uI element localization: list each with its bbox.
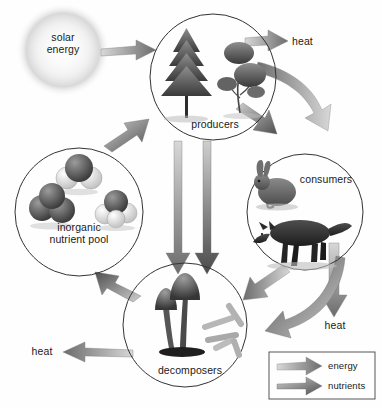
arrow-consumers-to-decomposers-energy (243, 265, 290, 300)
legend-label-nutrients: nutrients (328, 380, 382, 392)
solar-energy-label: solar energy (23, 31, 103, 55)
ecosystem-diagram: solar energy producers consumers decompo… (0, 0, 382, 409)
legend-label-energy: energy (328, 360, 378, 372)
heat-label-producers: heat (292, 35, 332, 47)
heat-label-decomposers: heat (22, 345, 62, 357)
heat-label-consumers: heat (315, 319, 355, 331)
node-label-producers: producers (175, 118, 255, 130)
legend-arrow-energy (277, 357, 322, 375)
arrow-decomposers-to-heat (63, 342, 133, 362)
arrow-producers-to-decomposers-nutrients (195, 141, 219, 274)
node-label-decomposers: decomposers (145, 364, 235, 376)
node-label-consumers: consumers (286, 173, 366, 185)
node-label-nutrient-pool: inorganic nutrient pool (29, 221, 129, 245)
arrow-nutrient-pool-to-producers (104, 119, 149, 152)
arrow-producers-to-decomposers-energy (166, 141, 190, 274)
legend-arrow-nutrients (277, 377, 322, 395)
